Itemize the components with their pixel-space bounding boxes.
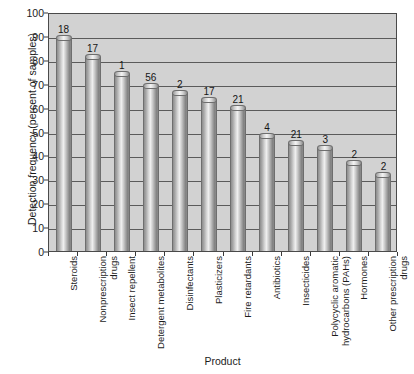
- bar-cap: [317, 145, 333, 151]
- bar-cap: [114, 71, 130, 77]
- bar-cap: [56, 35, 72, 41]
- y-tick-label: 100: [16, 7, 44, 19]
- y-tick-label: 10: [16, 222, 44, 234]
- y-tick-label: 20: [16, 198, 44, 210]
- bar-value-label: 2: [352, 149, 358, 160]
- x-tick-label: Nonprescription drugs: [97, 256, 125, 354]
- bar-cap: [259, 133, 275, 139]
- bar: [288, 143, 304, 251]
- y-tick-label: 70: [16, 79, 44, 91]
- y-tick-label: 50: [16, 127, 44, 139]
- x-tick-label: Detergent metabolites: [155, 256, 183, 354]
- y-tick-label: 40: [16, 150, 44, 162]
- bar: [317, 148, 333, 251]
- bar: [114, 74, 130, 251]
- bar-value-label: 17: [203, 86, 214, 97]
- x-tick-label: Steroids: [68, 256, 96, 354]
- x-axis-title: Product: [48, 355, 397, 367]
- y-tick-label: 30: [16, 174, 44, 186]
- bar-cap: [375, 172, 391, 178]
- bar-value-label: 4: [264, 122, 270, 133]
- bar-value-label: 1: [119, 60, 125, 71]
- bar: [375, 175, 391, 251]
- bar-value-label: 21: [291, 129, 302, 140]
- bar: [346, 163, 362, 251]
- x-tick-label: Disinfectants: [184, 256, 212, 354]
- bar-value-label: 2: [381, 161, 387, 172]
- x-tick-label: Insect repellent: [126, 256, 154, 354]
- bar-value-label: 2: [177, 79, 183, 90]
- x-tick-mark: [397, 252, 398, 256]
- bar: [172, 93, 188, 251]
- y-tick-label: 90: [16, 31, 44, 43]
- y-axis-ticks: 1009080706050403020100: [16, 0, 44, 374]
- bar-value-label: 56: [145, 72, 156, 83]
- bar: [143, 86, 159, 251]
- bar-cap: [85, 54, 101, 60]
- bar-cap: [143, 83, 159, 89]
- plot-area: 181715621721421322: [48, 13, 397, 252]
- x-tick-label: Plasticizers: [213, 256, 241, 354]
- x-tick-label: Antibiotics: [271, 256, 299, 354]
- y-tick-label: 60: [16, 103, 44, 115]
- bar-cap: [288, 140, 304, 146]
- bar-value-label: 21: [232, 94, 243, 105]
- bar-cap: [230, 105, 246, 111]
- x-tick-label: Polycyclic aromatic hydrocarbons (PAHs): [329, 256, 357, 354]
- x-tick-label: Insecticides: [300, 256, 328, 354]
- y-tick-label: 80: [16, 55, 44, 67]
- bar-value-label: 17: [87, 43, 98, 54]
- bar: [85, 57, 101, 251]
- x-axis-labels: SteroidsNonprescription drugsInsect repe…: [48, 256, 397, 354]
- bar: [201, 100, 217, 251]
- bar-cap: [201, 97, 217, 103]
- bar-cap: [172, 90, 188, 96]
- x-tick-label: Fire retardants: [242, 256, 270, 354]
- bar: [259, 136, 275, 251]
- bar-series: 181715621721421322: [49, 14, 396, 251]
- bar-value-label: 18: [58, 24, 69, 35]
- bar-cap: [346, 160, 362, 166]
- x-tick-label: Hormones: [358, 256, 386, 354]
- y-tick-label: 0: [16, 246, 44, 258]
- x-tick-label: Other prescription drugs: [387, 256, 414, 354]
- bar: [56, 38, 72, 251]
- bar: [230, 108, 246, 251]
- bar-value-label: 3: [323, 134, 329, 145]
